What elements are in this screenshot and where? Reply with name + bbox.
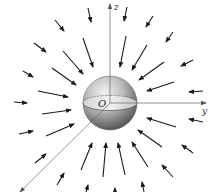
field-arrow	[83, 38, 93, 67]
field-arrow	[103, 143, 106, 177]
field-arrow	[46, 124, 74, 136]
field-arrow	[146, 16, 153, 27]
field-arrow	[124, 7, 127, 21]
field-arrow	[19, 131, 33, 134]
field-arrow	[86, 185, 88, 192]
y-axis-label: y	[201, 106, 208, 116]
field-arrow	[166, 32, 173, 42]
field-arrow	[138, 130, 162, 147]
field-arrow	[181, 60, 193, 66]
field-arrow	[42, 110, 71, 114]
field-arrow	[57, 173, 64, 185]
field-arrow	[142, 182, 144, 192]
field-arrow	[147, 82, 174, 91]
field-arrow	[132, 45, 147, 70]
field-arrow	[34, 43, 46, 52]
field-arrow	[14, 102, 27, 103]
field-arrow	[120, 36, 126, 67]
field-arrow	[118, 143, 125, 175]
field-arrow	[139, 62, 164, 80]
field-arrow	[147, 118, 176, 127]
field-arrow	[189, 119, 203, 122]
field-arrow	[55, 20, 64, 31]
field-arrow	[63, 51, 83, 74]
vector-field-diagram: z y O	[0, 0, 210, 192]
field-arrow	[81, 143, 92, 170]
field-arrow	[35, 154, 46, 163]
field-arrow	[88, 8, 91, 22]
field-arrow	[182, 145, 193, 153]
z-axis-label: z	[113, 2, 119, 12]
field-arrow	[189, 91, 203, 92]
field-arrow	[132, 142, 148, 167]
field-arrow	[52, 68, 76, 85]
field-arrow	[23, 71, 33, 77]
field-arrow	[38, 91, 68, 97]
origin-label: O	[98, 98, 106, 109]
field-arrow	[162, 165, 173, 177]
